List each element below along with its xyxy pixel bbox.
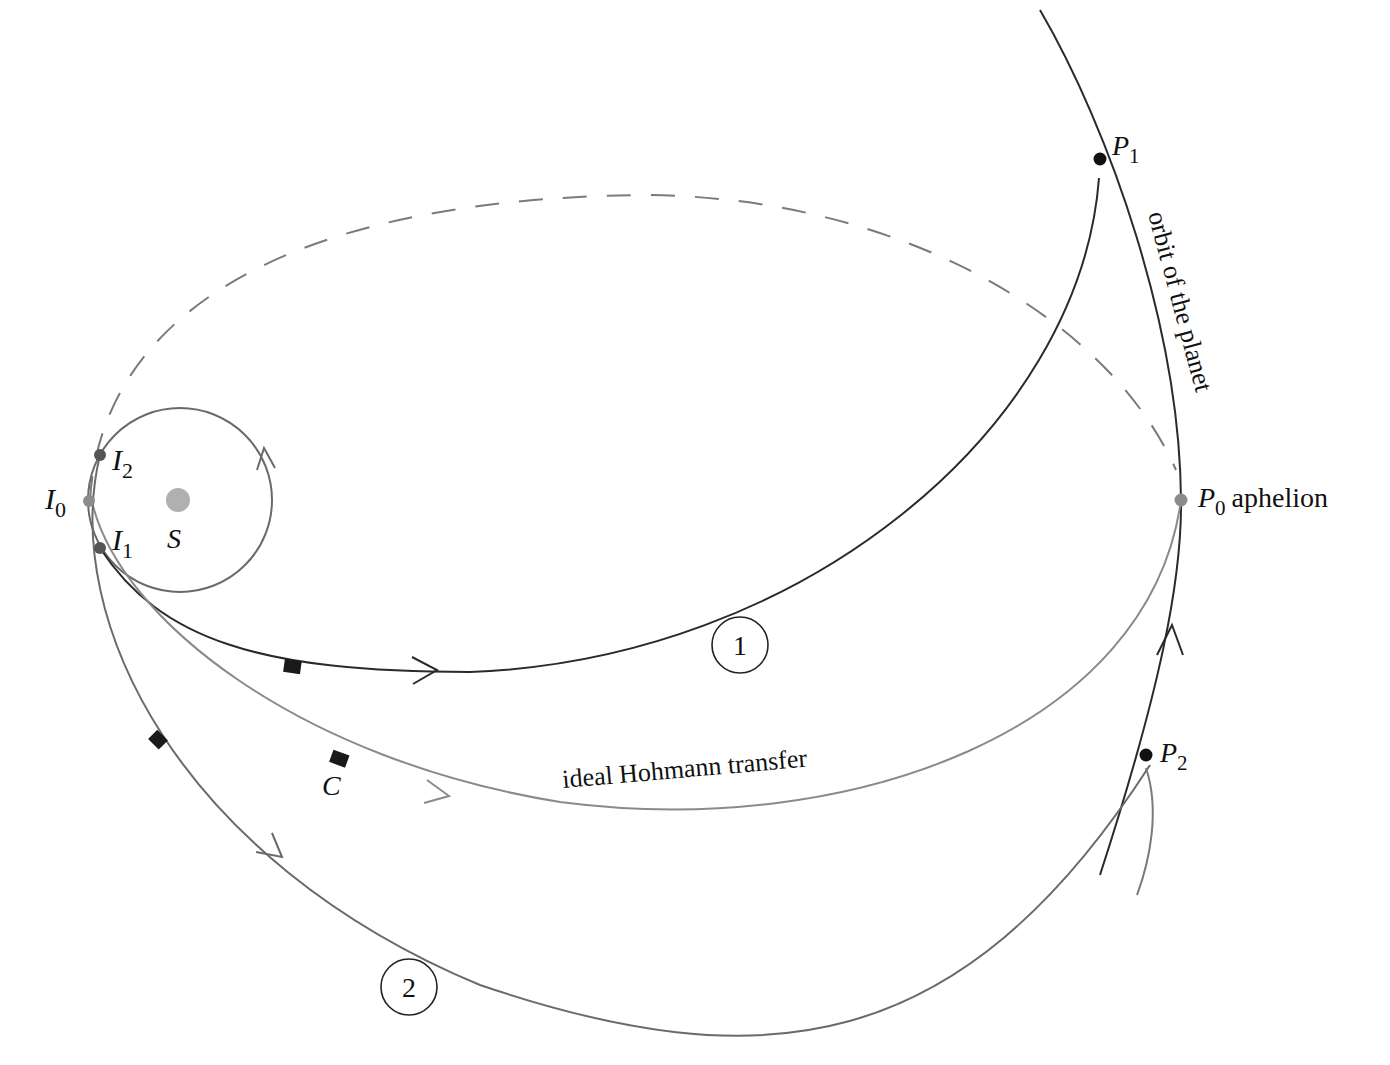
hohmann-burn-marker: [329, 750, 349, 768]
trajectory-2-gap: [928, 1020, 938, 1040]
trajectory-2-burn-marker: [148, 730, 168, 750]
dashed-reference-orbit: [90, 195, 1176, 500]
hohmann-arrow: [424, 780, 449, 803]
trajectory-1-number: 1: [733, 630, 747, 661]
trajectory-1: [100, 178, 1099, 672]
point-I0: [83, 495, 95, 507]
point-P2: [1140, 749, 1153, 762]
trajectory-2-end: [1137, 768, 1153, 895]
label-hohmann-transfer: ideal Hohmann transfer: [561, 744, 808, 794]
label-P1: P1: [1111, 130, 1140, 168]
point-P1: [1094, 153, 1107, 166]
trajectory-2: [93, 455, 1150, 1036]
trajectory-1-burn-marker: [283, 659, 302, 674]
label-I2: I2: [111, 443, 133, 483]
point-I2: [94, 449, 106, 461]
point-P0: [1175, 494, 1188, 507]
label-I0: I0: [44, 482, 66, 522]
hohmann-transfer-diagram: I0 I2 I1 S C P0aphelion P1 P2 orbit of t…: [0, 0, 1390, 1065]
label-P2: P2: [1159, 737, 1188, 775]
trajectory-2-number: 2: [402, 972, 416, 1003]
trajectory-2-arrow: [256, 833, 282, 857]
sun: [166, 488, 190, 512]
planet-orbit-arrow: [1157, 625, 1183, 655]
label-C: C: [322, 770, 341, 801]
point-I1: [94, 542, 106, 554]
label-S: S: [167, 523, 181, 554]
label-P0: P0aphelion: [1197, 482, 1328, 520]
